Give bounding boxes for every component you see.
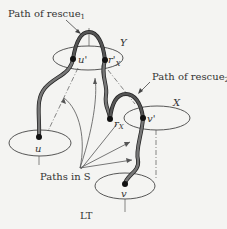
arrowhead: [126, 158, 132, 163]
label-X: X: [172, 97, 181, 108]
node-u: [36, 134, 42, 140]
node-v-prime: [140, 115, 146, 121]
label-r-x-prime: r'X: [108, 54, 122, 68]
arrowhead: [93, 78, 97, 84]
node-u-prime: [70, 56, 76, 62]
ellipse-X: [124, 106, 190, 130]
label-Y: Y: [120, 37, 128, 48]
path-in-s-1: [64, 98, 82, 168]
label-r-x: rX: [114, 118, 125, 131]
label-rescue2: Path of rescue2: [152, 71, 227, 84]
label-u: u: [35, 143, 41, 154]
label-rescue1: Path of rescue1: [8, 8, 85, 21]
rescue2-path: [110, 94, 143, 119]
arrowhead: [138, 88, 143, 94]
diagram: Path of rescue1 Path of rescue2 Y X u' r…: [0, 0, 227, 229]
arrowhead: [75, 29, 81, 34]
path-vprime-to-v: [125, 118, 143, 184]
label-lt: LT: [80, 210, 93, 221]
node-r-x: [107, 116, 113, 122]
label-v: v: [121, 188, 127, 199]
node-v: [122, 181, 128, 187]
diagram-canvas: Path of rescue1 Path of rescue2 Y X u' r…: [0, 0, 227, 229]
label-v-prime: v': [147, 113, 155, 124]
dashdot-rx: [108, 70, 135, 104]
label-u-prime: u': [78, 54, 87, 65]
label-paths-in-s: Paths in S: [40, 171, 91, 182]
